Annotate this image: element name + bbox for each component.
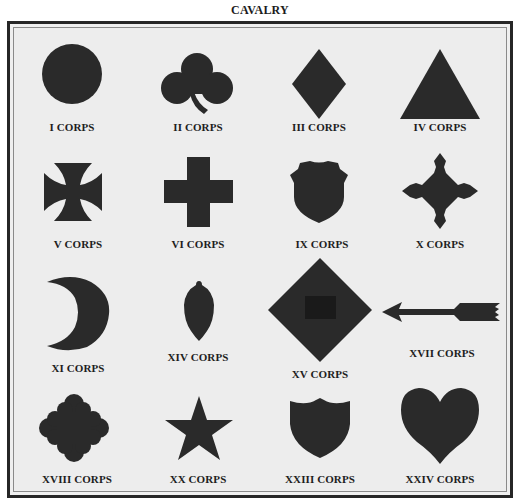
badge-label: XVII CORPS <box>409 347 474 359</box>
badge-label: II CORPS <box>173 121 222 133</box>
badge-label: XXIII CORPS <box>285 473 355 485</box>
badge-label: IX CORPS <box>295 238 348 250</box>
crescent-icon <box>41 272 111 352</box>
badge-label: V CORPS <box>54 238 102 250</box>
greek-cross-icon <box>164 157 233 227</box>
caption: CAVALRY <box>0 3 520 19</box>
badge-label: I CORPS <box>49 121 94 133</box>
badge-label: XV CORPS <box>292 368 349 380</box>
arrow-icon <box>382 300 502 324</box>
shield-badge-icon <box>288 161 350 225</box>
badge-label: XIV CORPS <box>168 351 229 363</box>
circle-icon <box>41 43 103 105</box>
badge-label: XI CORPS <box>51 362 104 374</box>
badge-label: XXIV CORPS <box>406 473 475 485</box>
trefoil-club-icon <box>160 52 234 114</box>
cross-with-foliated-arms-icon <box>39 394 109 462</box>
diamond-icon <box>291 49 347 119</box>
badge-label: III CORPS <box>292 121 346 133</box>
triangle-icon <box>399 49 481 119</box>
badge-label: VI CORPS <box>171 238 224 250</box>
diamond-with-cartridge-box-icon <box>268 258 372 362</box>
badge-label: IV CORPS <box>414 121 467 133</box>
badge-label: X CORPS <box>416 238 465 250</box>
maltese-cross-icon <box>44 163 102 221</box>
badge-label: XVIII CORPS <box>42 473 112 485</box>
heart-icon <box>401 388 479 464</box>
acorn-icon <box>183 281 215 341</box>
four-pointed-cross-icon <box>402 153 478 229</box>
star-icon <box>165 396 233 460</box>
shield-icon <box>290 398 350 458</box>
badge-label: XX CORPS <box>170 473 227 485</box>
